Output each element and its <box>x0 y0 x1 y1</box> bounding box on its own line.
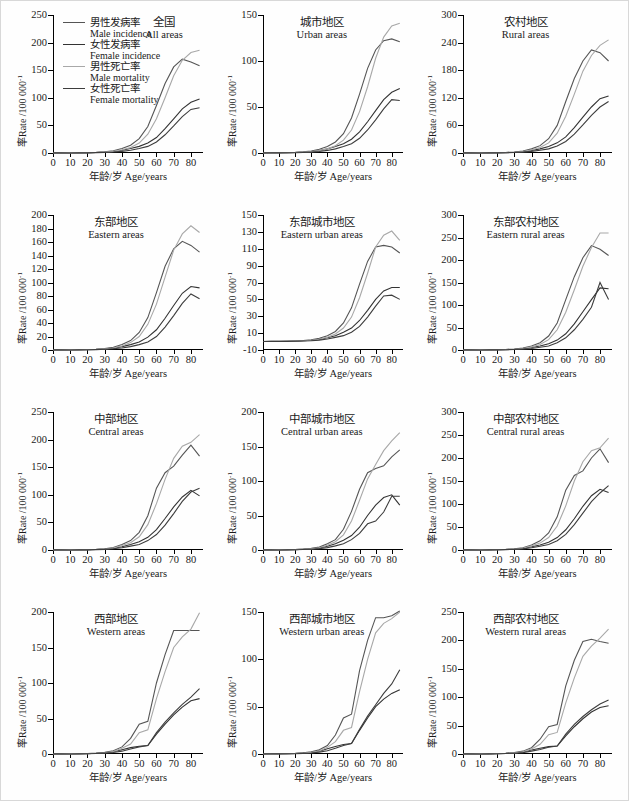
x-tick-label: 70 <box>168 355 179 366</box>
series-line-female_mortality <box>463 486 609 550</box>
panel-title-en: Eastern areas <box>88 229 144 241</box>
x-tick-label: 80 <box>186 555 197 566</box>
y-tick-label: 240 <box>441 37 457 48</box>
legend-label-en: Female mortality <box>90 94 160 105</box>
x-tick-label: 20 <box>82 158 93 169</box>
y-tick-label: 50 <box>37 713 48 724</box>
x-tick-label: 0 <box>50 158 55 169</box>
y-tick-label: 150 <box>241 210 257 221</box>
y-axis-label: 率Rate /100 000-1 <box>427 75 438 147</box>
x-tick-label: 70 <box>578 759 589 770</box>
y-tick-label: 120 <box>31 264 47 275</box>
x-tick-label: 40 <box>526 158 537 169</box>
x-tick-label: 0 <box>460 555 465 566</box>
legend-label-cn: 男性发病率 <box>90 17 140 28</box>
series-line-female_mortality <box>263 670 400 754</box>
legend-item-male_mortality: 男性死亡率 <box>63 61 160 72</box>
x-tick-label: 50 <box>543 158 554 169</box>
y-tick-label: 150 <box>31 462 47 473</box>
x-tick-label: 0 <box>260 355 265 366</box>
y-tick-label: 100 <box>441 499 457 510</box>
y-tick-label: 100 <box>241 476 257 487</box>
x-tick-label: 20 <box>492 158 503 169</box>
y-axis-label: 率Rate /100 000-1 <box>227 472 238 544</box>
y-tick-label: 130 <box>241 227 257 238</box>
series-line-male_mortality <box>463 629 609 754</box>
series-line-female_mortality <box>53 488 200 550</box>
y-tick-label: 200 <box>241 407 257 418</box>
series-line-male_incidence <box>463 449 609 550</box>
x-tick-label: 40 <box>322 158 333 169</box>
series-line-female_incidence <box>463 489 609 550</box>
y-tick-label: 200 <box>31 37 47 48</box>
panel-title-cn: 中部农村地区 <box>487 413 565 426</box>
x-tick-label: 50 <box>134 759 145 770</box>
y-tick-label: 0 <box>452 545 457 556</box>
x-tick-label: 10 <box>65 355 76 366</box>
x-tick-label: 40 <box>117 555 128 566</box>
x-tick-label: 10 <box>65 555 76 566</box>
x-tick-label: 70 <box>168 759 179 770</box>
y-tick-label: 0 <box>252 749 257 760</box>
y-tick-label: 180 <box>31 223 47 234</box>
series-line-male_mortality <box>463 233 609 350</box>
legend-item-male_incidence: 男性发病率 <box>63 17 160 28</box>
figure-panel-grid: 05010015020025001020304050607080全国All ar… <box>0 0 629 801</box>
series-line-female_incidence <box>463 288 609 350</box>
y-axis-label: 率Rate /100 000-1 <box>17 472 28 544</box>
series-line-male_incidence <box>463 639 609 754</box>
x-axis-label: 年龄/岁 Age/years <box>53 368 203 380</box>
y-tick-label: 100 <box>241 56 257 67</box>
y-tick-label: 200 <box>441 453 457 464</box>
y-tick-label: 0 <box>42 345 47 356</box>
panel-title-en: Eastern rural areas <box>487 229 565 241</box>
y-tick-label: 50 <box>37 120 48 131</box>
x-tick-label: 50 <box>543 355 554 366</box>
x-tick-label: 70 <box>168 158 179 169</box>
x-axis-label: 年龄/岁 Age/years <box>53 772 203 784</box>
panel-title: 西部城市地区Western urban areas <box>279 613 364 638</box>
panel-title: 中部城市地区Central urban areas <box>281 413 363 438</box>
y-tick-label: 300 <box>441 407 457 418</box>
y-tick-label: 0 <box>42 749 47 760</box>
y-axis-label: 率Rate /100 000-1 <box>427 272 438 344</box>
x-tick-label: 30 <box>99 158 110 169</box>
x-tick-label: 70 <box>578 158 589 169</box>
x-tick-label: 40 <box>526 555 537 566</box>
x-tick-label: 20 <box>82 355 93 366</box>
legend-swatch-female_mortality <box>63 88 85 90</box>
x-tick-label: 10 <box>475 759 486 770</box>
panel-title: 城市地区Urban areas <box>297 16 347 41</box>
y-tick-label: 250 <box>441 607 457 618</box>
y-tick-label: 50 <box>247 510 258 521</box>
y-tick-label: 50 <box>247 102 258 113</box>
panel-title-cn: 东部地区 <box>88 216 144 229</box>
y-tick-label: 110 <box>242 244 257 255</box>
panel-title-en: Central rural areas <box>487 426 565 438</box>
panel-title-en: Western urban areas <box>279 626 364 638</box>
x-tick-label: 0 <box>460 158 465 169</box>
x-tick-label: 50 <box>338 759 349 770</box>
series-line-male_mortality <box>263 433 400 550</box>
x-tick-label: 80 <box>186 759 197 770</box>
x-tick-label: 30 <box>509 158 520 169</box>
x-tick-label: 70 <box>168 555 179 566</box>
y-tick-label: 0 <box>42 148 47 159</box>
legend-label-cn: 男性死亡率 <box>90 61 140 72</box>
series-line-female_mortality <box>463 101 609 153</box>
x-tick-label: 20 <box>492 355 503 366</box>
panel-title-en: Urban areas <box>297 29 347 41</box>
x-tick-label: 80 <box>386 158 397 169</box>
x-tick-label: 80 <box>595 158 606 169</box>
x-tick-label: 80 <box>186 355 197 366</box>
x-tick-label: 10 <box>65 759 76 770</box>
x-axis-label: 年龄/岁 Age/years <box>263 568 403 580</box>
y-tick-label: -10 <box>243 345 257 356</box>
panel-title-en: Western areas <box>87 626 145 638</box>
x-tick-label: 20 <box>290 759 301 770</box>
y-tick-label: 60 <box>447 120 458 131</box>
chart-panel-urban-areas: 05010015001020304050607080城市地区Urban area… <box>215 1 415 201</box>
x-tick-label: 0 <box>50 355 55 366</box>
y-tick-label: 20 <box>37 331 48 342</box>
series-line-male_mortality <box>263 23 400 153</box>
